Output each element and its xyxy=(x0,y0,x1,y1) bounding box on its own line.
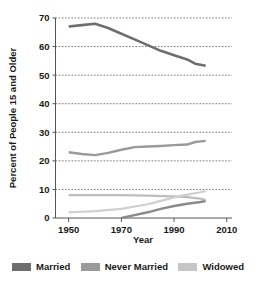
series-line-never-married xyxy=(69,141,206,155)
y-tick-label-50: 50 xyxy=(39,70,50,81)
legend-item-widowed: Widowed xyxy=(178,261,244,272)
x-tick-label-1990: 1990 xyxy=(163,224,184,235)
series-line-married xyxy=(69,24,206,66)
x-axis-title: Year xyxy=(133,234,153,245)
legend-item-never-married: Never Married xyxy=(81,261,168,272)
y-tick-label-30: 30 xyxy=(39,127,50,138)
legend-label-married: Married xyxy=(36,261,70,272)
plot-area: 0102030405060701950197019902010 Year Per… xyxy=(0,0,256,248)
y-tick-label-10: 10 xyxy=(39,184,50,195)
y-tick-label-40: 40 xyxy=(39,98,50,109)
line-chart-svg: 0102030405060701950197019902010 Year Per… xyxy=(0,0,256,248)
legend-label-never-married: Never Married xyxy=(105,261,168,272)
legend-label-widowed: Widowed xyxy=(202,261,244,272)
axis-lines-group xyxy=(56,18,233,218)
y-tick-label-0: 0 xyxy=(44,212,49,223)
legend-swatch-married xyxy=(12,263,31,271)
tick-labels-group: 0102030405060701950197019902010 xyxy=(39,12,237,235)
y-tick-label-20: 20 xyxy=(39,155,50,166)
x-tick-label-1950: 1950 xyxy=(58,224,79,235)
series-line-divorced xyxy=(121,201,205,218)
legend-swatch-never-married xyxy=(81,263,100,271)
chart-figure: 0102030405060701950197019902010 Year Per… xyxy=(0,0,256,281)
x-tick-label-1970: 1970 xyxy=(111,224,132,235)
chart-legend: Married Never Married Widowed xyxy=(0,252,256,281)
y-tick-label-70: 70 xyxy=(39,12,50,23)
x-tick-label-2010: 2010 xyxy=(216,224,237,235)
y-tick-label-60: 60 xyxy=(39,41,50,52)
series-group xyxy=(69,24,206,218)
legend-swatch-widowed xyxy=(178,263,197,271)
legend-item-married: Married xyxy=(12,261,70,272)
y-axis-title: Percent of People 15 and Older xyxy=(7,47,18,188)
